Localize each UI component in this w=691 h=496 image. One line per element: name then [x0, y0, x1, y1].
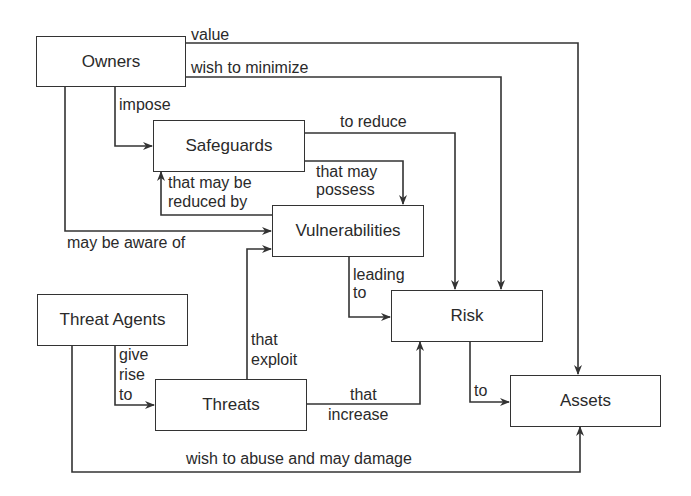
node-threat-agents-label: Threat Agents: [60, 310, 166, 330]
node-threat-agents: Threat Agents: [37, 294, 188, 346]
label-value: value: [191, 26, 229, 44]
node-assets: Assets: [510, 375, 661, 427]
label-impose: impose: [119, 96, 171, 114]
node-safeguards: Safeguards: [153, 120, 305, 172]
node-threats: Threats: [155, 379, 307, 431]
node-risk-label: Risk: [450, 306, 483, 326]
label-that-may-possess-1: that may: [316, 163, 377, 181]
node-owners-label: Owners: [82, 52, 141, 72]
label-reduced-by-1: that may be: [168, 174, 252, 192]
label-risk-to-assets: to: [474, 382, 487, 400]
node-safeguards-label: Safeguards: [186, 136, 273, 156]
label-reduced-by-2: reduced by: [168, 193, 247, 211]
label-leading-to-2: to: [353, 284, 366, 302]
node-vulnerabilities: Vulnerabilities: [272, 205, 424, 257]
node-vulnerabilities-label: Vulnerabilities: [295, 221, 400, 241]
label-to-reduce: to reduce: [340, 113, 407, 131]
edge-impose: [115, 86, 152, 146]
node-threats-label: Threats: [202, 395, 260, 415]
label-give-rise-to-2: rise: [119, 366, 145, 384]
label-that-increase-1: that: [350, 386, 377, 404]
label-may-be-aware-of: may be aware of: [67, 234, 185, 252]
node-owners: Owners: [36, 36, 186, 87]
label-that-increase-2: increase: [328, 406, 388, 424]
label-that-may-possess-2: possess: [316, 181, 375, 199]
label-that-exploit-2: exploit: [251, 351, 297, 369]
node-risk: Risk: [391, 290, 543, 342]
label-wish-to-minimize: wish to minimize: [191, 59, 308, 77]
label-that-exploit-1: that: [251, 331, 278, 349]
label-give-rise-to-3: to: [119, 386, 132, 404]
label-give-rise-to-1: give: [119, 346, 148, 364]
label-wish-to-abuse: wish to abuse and may damage: [186, 450, 412, 468]
node-assets-label: Assets: [560, 391, 611, 411]
label-leading-to-1: leading: [353, 266, 405, 284]
